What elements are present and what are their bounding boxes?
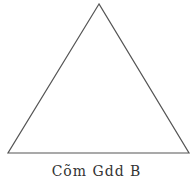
diagram-caption: Cõm Gdd B [0, 163, 193, 177]
triangle-shape [8, 4, 189, 153]
triangle-diagram [0, 0, 193, 177]
